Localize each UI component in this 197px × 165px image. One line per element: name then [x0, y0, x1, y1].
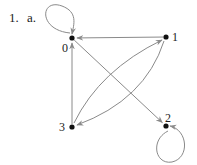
- edge-1-to-0: [77, 37, 163, 38]
- node-label-0: 0: [62, 42, 68, 54]
- node-label-1: 1: [172, 31, 178, 43]
- node-1: [163, 34, 168, 39]
- node-label-3: 3: [59, 121, 65, 133]
- node-0: [69, 35, 74, 40]
- edge-2-to-2: [157, 126, 185, 162]
- node-label-2: 2: [165, 112, 171, 124]
- node-3: [69, 124, 74, 129]
- edge-0-to-0: [46, 5, 74, 34]
- directed-graph: [0, 0, 197, 165]
- edge-0-to-2: [74, 40, 162, 123]
